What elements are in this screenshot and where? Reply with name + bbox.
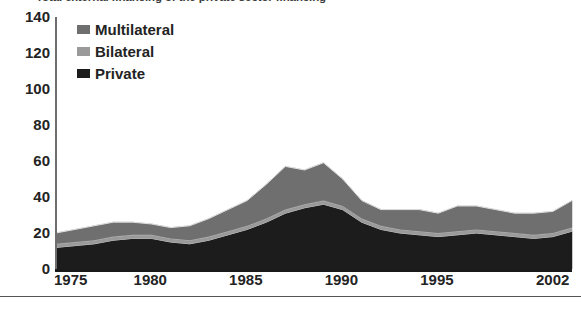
y-axis-tick-20: 20 (4, 225, 50, 240)
y-axis-tick-140: 140 (4, 9, 50, 24)
y-axis-tick-120: 120 (4, 45, 50, 60)
legend-swatch-multilateral (77, 25, 90, 34)
legend-label-bilateral: Bilateral (95, 44, 154, 59)
y-axis-tick-60: 60 (4, 153, 50, 168)
legend-swatch-bilateral (77, 47, 90, 56)
x-axis-tick-1980: 1980 (134, 272, 167, 287)
x-axis-tick-1995: 1995 (420, 272, 453, 287)
legend-label-multilateral: Multilateral (95, 22, 174, 37)
y-axis-line (55, 17, 57, 270)
x-axis-tick-1985: 1985 (229, 272, 262, 287)
legend-swatch-private (77, 69, 90, 78)
y-axis-tick-40: 40 (4, 189, 50, 204)
legend-item-private: Private (77, 64, 174, 83)
legend-item-multilateral: Multilateral (77, 20, 174, 39)
x-axis-tick-1975: 1975 (54, 272, 87, 287)
x-axis-tick-labels: 197519801985199019952002 (0, 272, 581, 294)
x-axis-tick-1990: 1990 (325, 272, 358, 287)
y-axis-tick-labels: 140120100806040200 (0, 0, 50, 309)
y-axis-tick-100: 100 (4, 81, 50, 96)
x-axis-tick-2002: 2002 (536, 272, 569, 287)
legend-label-private: Private (95, 66, 145, 81)
y-axis-tick-80: 80 (4, 117, 50, 132)
footer-divider (0, 296, 581, 297)
legend-item-bilateral: Bilateral (77, 42, 174, 61)
chart-figure: Total external financing of the private … (0, 0, 581, 309)
chart-legend: MultilateralBilateralPrivate (77, 20, 174, 83)
